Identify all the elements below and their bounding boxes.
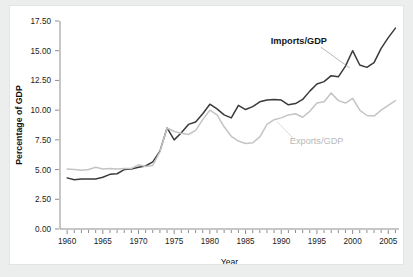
series-annotation-imports: Imports/GDP [271,36,327,46]
x-tick-label: 1995 [308,237,327,246]
y-tick-label: 17.50 [31,17,52,26]
x-tick-label: 1965 [94,237,113,246]
x-tick-label: 1980 [201,237,220,246]
y-tick-label: 10.00 [31,106,52,115]
series-annotation-exports: Exports/GDP [290,136,344,146]
series-line-imports [67,28,395,180]
series-group [67,28,395,180]
y-axis-title: Percentage of GDP [14,85,24,165]
x-tick-label: 2000 [344,237,363,246]
annotation-leader-line [321,47,350,68]
y-tick-label: 0.00 [35,225,51,234]
x-tick-label: 1960 [58,237,77,246]
x-axis-ticks-group: 1960196519701975198019851990199520002005 [58,230,398,246]
y-tick-label: 5.00 [35,166,51,175]
y-tick-label: 7.50 [35,136,51,145]
chart-card: 0.002.505.007.5010.0012.5015.0017.50 196… [9,5,404,265]
x-tick-label: 1975 [165,237,184,246]
y-axis-ticks-group: 0.002.505.007.5010.0012.5015.0017.50 [31,17,60,234]
x-tick-label: 2005 [379,237,398,246]
x-tick-label: 1985 [236,237,255,246]
y-tick-label: 12.50 [31,76,52,85]
line-chart: 0.002.505.007.5010.0012.5015.0017.50 196… [10,6,403,264]
series-line-exports [67,93,395,170]
y-tick-label: 15.00 [31,47,52,56]
x-tick-label: 1990 [272,237,291,246]
x-tick-label: 1970 [129,237,148,246]
y-tick-label: 2.50 [35,195,51,204]
x-axis-title: Year [221,257,239,264]
